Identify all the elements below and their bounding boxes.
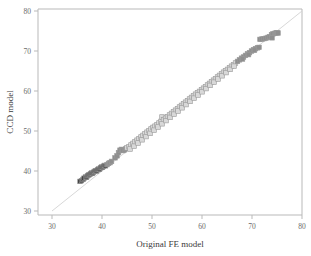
x-tick-label: 50 bbox=[148, 222, 156, 231]
scatter-chart: 304050607080 304050607080 Original FE mo… bbox=[0, 0, 311, 256]
x-tick-label: 60 bbox=[198, 222, 206, 231]
series-high-range bbox=[235, 30, 280, 63]
series-central-range bbox=[125, 61, 238, 152]
y-tick-label: 60 bbox=[24, 87, 32, 96]
data-point bbox=[257, 45, 262, 50]
data-point bbox=[246, 52, 251, 57]
x-axis-title: Original FE model bbox=[136, 239, 204, 249]
y-axis-ticks: 304050607080 bbox=[24, 7, 39, 216]
y-axis-title: CCD model bbox=[5, 90, 15, 134]
y-tick-label: 50 bbox=[24, 127, 32, 136]
y-tick-label: 70 bbox=[24, 47, 32, 56]
x-axis-ticks: 304050607080 bbox=[48, 215, 306, 231]
y-tick-label: 40 bbox=[24, 167, 32, 176]
data-point bbox=[240, 57, 245, 62]
x-tick-label: 80 bbox=[298, 222, 306, 231]
data-point bbox=[252, 48, 257, 53]
y-tick-label: 80 bbox=[24, 7, 32, 16]
y-tick-label: 30 bbox=[24, 207, 32, 216]
data-point bbox=[276, 31, 281, 36]
x-tick-label: 30 bbox=[48, 222, 56, 231]
x-tick-label: 70 bbox=[248, 222, 256, 231]
data-point bbox=[232, 64, 237, 69]
data-point bbox=[270, 36, 275, 41]
plot-canvas: 304050607080 304050607080 Original FE mo… bbox=[0, 0, 311, 256]
x-tick-label: 40 bbox=[98, 222, 106, 231]
data-points-group bbox=[78, 30, 281, 183]
series-low-range bbox=[78, 163, 108, 184]
